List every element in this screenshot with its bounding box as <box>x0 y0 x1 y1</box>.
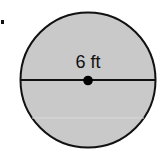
center-point <box>83 76 93 86</box>
circle-diagram: 6 ft <box>0 0 159 157</box>
circle-figure-svg: 6 ft <box>0 0 159 157</box>
problem-marker-dot <box>1 20 4 24</box>
diameter-label: 6 ft <box>75 52 100 72</box>
